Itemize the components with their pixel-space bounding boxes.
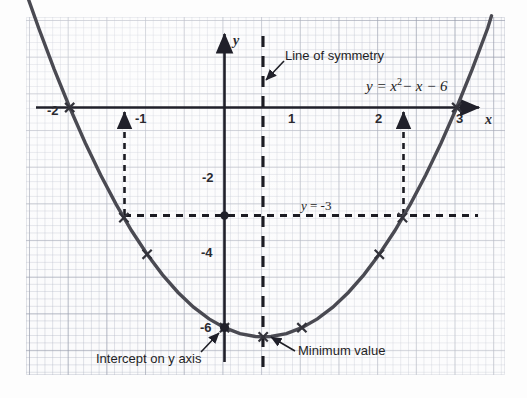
axis-label-y: y <box>233 34 239 48</box>
x-tick-label-minus-1: -1 <box>135 112 147 125</box>
y-intercept-leader <box>201 333 219 352</box>
line-of-symmetry-label: Line of symmetry <box>285 49 384 62</box>
horizontal-level-label-rhs: = -3 <box>310 198 331 213</box>
axis-label-x: x <box>485 113 492 127</box>
horizontal-level-label-lhs: y <box>301 198 307 213</box>
parabola-curve <box>27 0 491 337</box>
y-tick-label-minus-6: -6 <box>200 321 212 334</box>
equation-rhs: − x − 6 <box>402 78 448 94</box>
horizontal-level-label: y = -3 <box>301 199 331 212</box>
equation-lhs: y = x <box>366 78 397 94</box>
x-tick-label-3: 3 <box>456 112 463 125</box>
minimum-value-label: Minimum value <box>298 344 385 357</box>
y-tick-label-minus-2: -2 <box>202 171 214 184</box>
y-tick-label-minus-4: -4 <box>201 246 213 259</box>
x-tick-label-2: 2 <box>375 112 382 125</box>
graph-figure: y x -2 -1 1 2 3 -2 -4 -6 Line of symmetr… <box>0 0 527 398</box>
x-tick-label-1: 1 <box>288 112 295 125</box>
minimum-value-leader <box>271 337 295 351</box>
equation-label: y = x2− x − 6 <box>366 77 448 94</box>
line-of-symmetry-leader <box>266 61 284 80</box>
x-tick-label-minus-2: -2 <box>47 104 59 117</box>
graph-vector-layer <box>0 0 527 398</box>
y-intercept-label: Intercept on y axis <box>96 352 202 365</box>
